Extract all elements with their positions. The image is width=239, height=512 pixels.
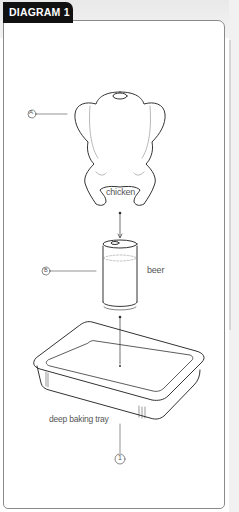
beer-can-drawing xyxy=(103,240,137,310)
marker-1: 1 xyxy=(118,454,122,461)
chicken-label: chicken xyxy=(106,187,135,197)
marker-a: A xyxy=(29,109,33,115)
marker-b: B xyxy=(44,267,47,273)
baking-tray-drawing xyxy=(34,322,204,419)
diagram-illustration xyxy=(0,0,239,512)
beer-label: beer xyxy=(147,265,164,275)
tray-label: deep baking tray xyxy=(49,414,109,424)
